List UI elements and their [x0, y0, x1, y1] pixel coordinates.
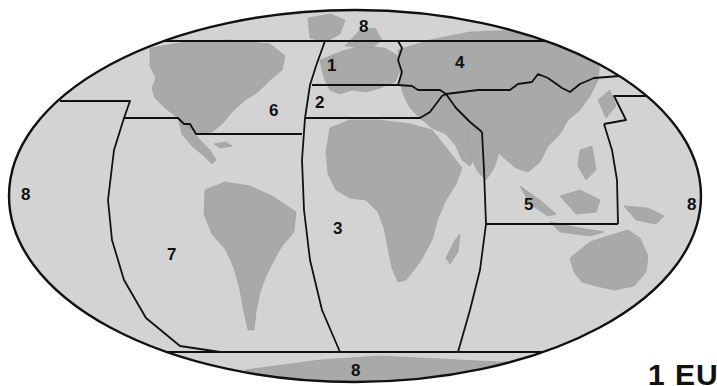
region-label-7: 7 [167, 245, 176, 264]
region-label-8-top: 8 [359, 17, 368, 36]
map-caption: 1 EU [648, 358, 717, 386]
region-label-8-right: 8 [687, 195, 696, 214]
region-label-3: 3 [333, 219, 342, 238]
region-label-2: 2 [315, 93, 324, 112]
region-label-4: 4 [455, 53, 465, 72]
region-label-6: 6 [269, 101, 278, 120]
world-region-map: 1 2 3 4 5 6 7 8 8 8 8 [0, 0, 717, 386]
region-label-8-left: 8 [21, 185, 30, 204]
region-label-1: 1 [327, 56, 336, 75]
region-label-8-bottom: 8 [351, 361, 360, 380]
region-label-5: 5 [524, 195, 533, 214]
